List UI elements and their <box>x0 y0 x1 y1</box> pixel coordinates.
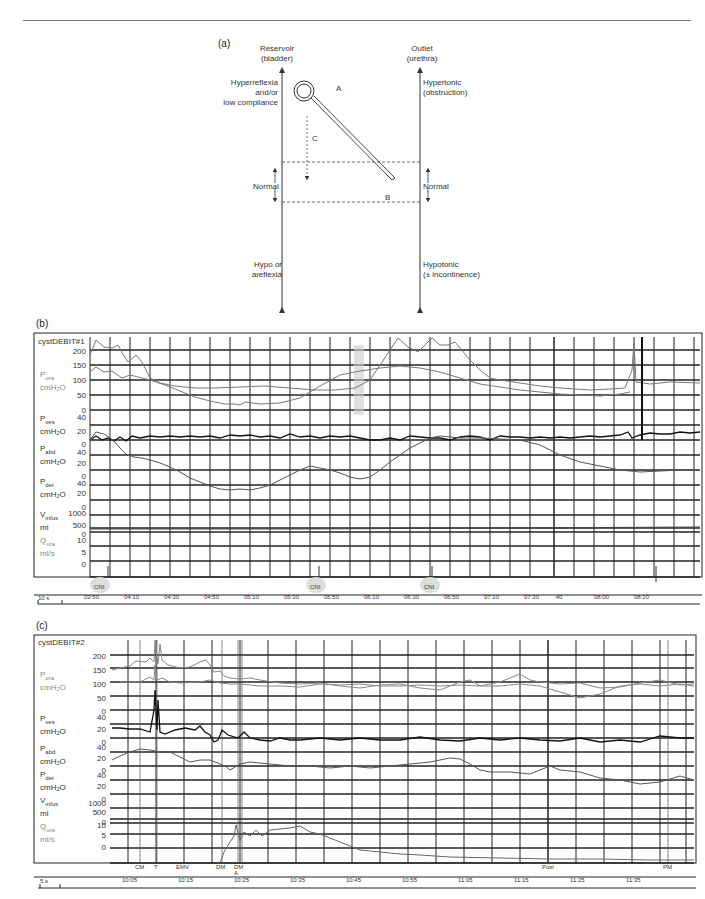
panel-c-chart <box>0 0 705 899</box>
time-axis-c: 10:05 10:15 10:25 10:35 10:45 10:55 11:0… <box>122 877 702 887</box>
scale-bar-c: 5 s <box>40 876 48 886</box>
